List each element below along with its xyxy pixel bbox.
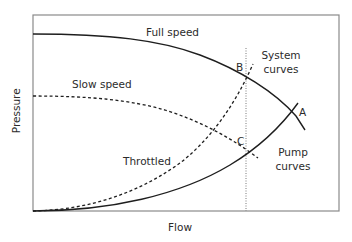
- y-axis-label: Pressure: [11, 89, 22, 133]
- pump-curves-line-2: curves: [268, 161, 318, 172]
- system-curves-label: System curves: [256, 50, 306, 74]
- full-speed-label: Full speed: [146, 27, 199, 38]
- system-curves-line-2: curves: [256, 64, 306, 75]
- point-c-label: C: [237, 136, 244, 147]
- throttled-system-curve: [33, 64, 253, 211]
- pump-curves-label: Pump curves: [268, 147, 318, 171]
- throttled-label: Throttled: [123, 156, 171, 167]
- point-a-label: A: [299, 107, 306, 118]
- point-b-label: B: [236, 62, 243, 73]
- pump-curves-line-1: Pump: [268, 147, 318, 158]
- slow-speed-label: Slow speed: [72, 79, 132, 90]
- system-curves-line-1: System: [256, 50, 306, 61]
- pump-system-curves-diagram: Full speed Slow speed Throttled System c…: [0, 0, 352, 242]
- slow-speed-pump-curve: [33, 96, 258, 158]
- x-axis-label: Flow: [168, 222, 192, 233]
